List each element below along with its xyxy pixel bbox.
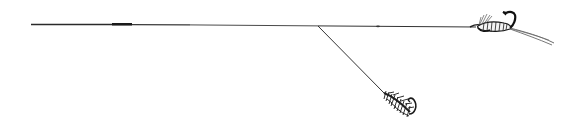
leader-line xyxy=(31,24,476,27)
dropper-line xyxy=(318,26,384,93)
hackled-fly xyxy=(384,91,416,117)
winged-fly xyxy=(470,12,554,45)
fishing-leader-illustration xyxy=(0,0,583,124)
